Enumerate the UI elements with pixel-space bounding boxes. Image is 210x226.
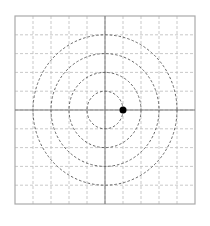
axes xyxy=(15,16,195,204)
polar-grid-diagram xyxy=(0,0,210,226)
data-point xyxy=(120,107,127,114)
